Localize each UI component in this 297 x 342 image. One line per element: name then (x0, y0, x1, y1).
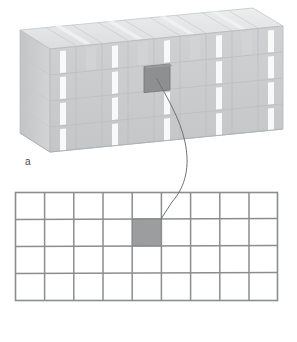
panel-b-graphic (0, 180, 297, 342)
panel-a-3d-block: a (0, 0, 297, 180)
panel-a-label: a (25, 157, 31, 167)
panel-a-graphic (0, 0, 297, 180)
panel-a-highlighted-cube[interactable] (144, 64, 173, 93)
panel-b-highlighted-cell[interactable] (132, 219, 161, 246)
panel-b-2d-grid: b (0, 180, 297, 342)
figure-root: a b (0, 0, 297, 342)
block-left-side-face (20, 30, 50, 152)
